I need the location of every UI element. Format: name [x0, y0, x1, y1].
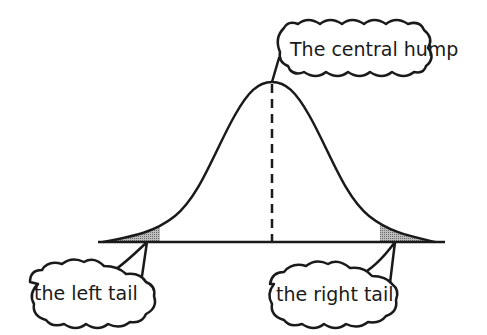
callout-central-hump: The central hump	[272, 20, 458, 82]
callout-right-tail: the right tail	[269, 242, 397, 328]
callout-left-tail-text: the left tail	[34, 282, 138, 304]
callout-central-hump-text: The central hump	[289, 38, 458, 60]
diagram-canvas: The central hump the left tail the right…	[0, 0, 487, 335]
callout-left-tail: the left tail	[30, 242, 155, 328]
bell-curve	[103, 82, 435, 242]
callout-right-tail-text: the right tail	[276, 283, 394, 305]
